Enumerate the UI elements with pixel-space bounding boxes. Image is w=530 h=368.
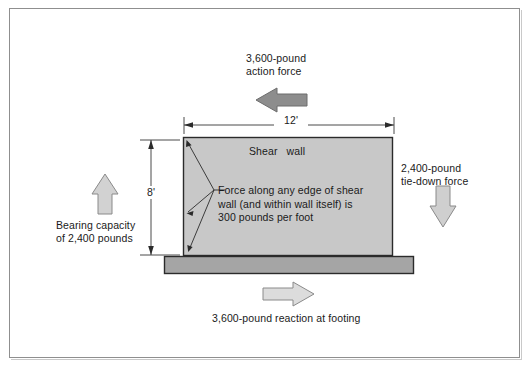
width-dimension-label: 12' <box>274 114 308 127</box>
footing <box>165 257 414 274</box>
bearing-capacity-arrow <box>92 174 118 214</box>
action-force-label: 3,600-pound action force <box>246 52 366 78</box>
bearing-capacity-label: Bearing capacity of 2,400 pounds <box>56 219 168 245</box>
tie-down-force-arrow <box>430 186 456 227</box>
height-dimension-label: 8' <box>141 186 161 199</box>
force-note-label: Force along any edge of shear wall (and … <box>218 184 400 225</box>
shear-wall-label: Shear wall <box>249 145 359 158</box>
footing-reaction-label: 3,600-pound reaction at footing <box>212 312 392 325</box>
footing-reaction-arrow <box>263 282 314 306</box>
tie-down-force-label: 2,400-pound tie-down force <box>401 162 511 188</box>
figure-root: 3,600-pound action force 12' 8' Shear wa… <box>0 0 530 368</box>
action-force-arrow <box>256 88 307 112</box>
